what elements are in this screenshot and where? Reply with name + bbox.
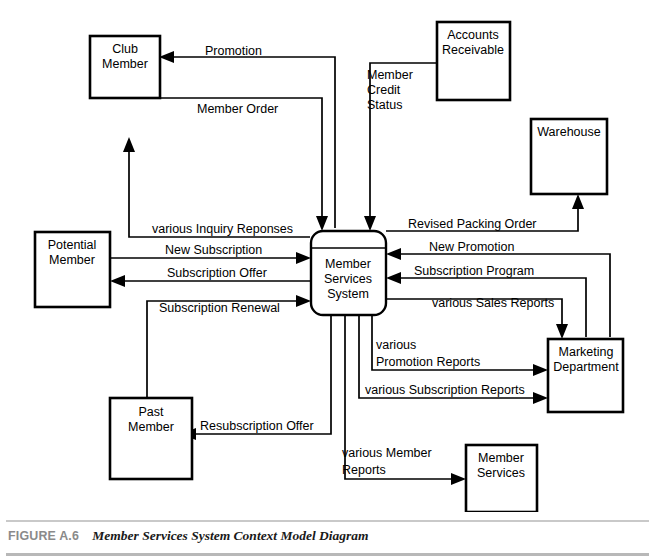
entity-member-services-label-line-2: Services [477, 466, 525, 480]
flow-label-subscription-offer: Subscription Offer [167, 266, 267, 280]
flow-various-promotion-reports-arrowhead [533, 364, 548, 376]
entity-member-services[interactable]: Member Services [466, 445, 537, 512]
flow-promotion [159, 51, 335, 228]
flow-label-various-subscription-reports: various Subscription Reports [365, 383, 525, 397]
flow-new-subscription-arrowhead [296, 252, 311, 264]
entity-club-member-label-line-2: Member [102, 57, 148, 71]
flow-label-various-inquiry-reponses: various Inquiry Reponses [152, 222, 293, 236]
entity-warehouse-label-line-1: Warehouse [537, 125, 601, 139]
flow-label-various-sales-reports: various Sales Reports [432, 296, 554, 310]
entity-past-member-label-line-1: Past [138, 405, 164, 419]
entity-marketing-department-label-line-1: Marketing [559, 345, 614, 359]
entity-potential-member-label-line-1: Potential [48, 238, 97, 252]
flow-member-credit-status-arrowhead [364, 216, 376, 231]
flow-label-subscription-program: Subscription Program [414, 264, 534, 278]
flow-label-member-credit-status-line-1: Member [367, 68, 413, 82]
flow-label-revised-packing-order: Revised Packing Order [408, 217, 537, 231]
flow-member-order-arrowhead [316, 216, 328, 231]
entity-marketing-department[interactable]: Marketing Department [548, 339, 623, 412]
flow-resubscription-offer-path [192, 315, 331, 434]
flow-label-subscription-renewal: Subscription Renewal [159, 301, 280, 315]
flow-new-promotion-arrowhead [386, 248, 401, 260]
flow-label-various-promotion-reports-line-2: Promotion Reports [376, 355, 480, 369]
figure-container: Club Member Accounts Receivable Warehous… [0, 0, 655, 558]
entity-potential-member-label-line-2: Member [49, 253, 95, 267]
entity-member-services-label-line-1: Member [478, 451, 524, 465]
entity-warehouse[interactable]: Warehouse [531, 119, 607, 194]
flow-various-member-reports-arrowhead [451, 473, 466, 485]
flow-label-various-member-reports-line-1: various Member [342, 446, 432, 460]
caption-text: FIGURE A.6Member Services System Context… [8, 526, 369, 544]
flow-subscription-program-arrowhead [386, 272, 401, 284]
entity-accounts-receivable[interactable]: Accounts Receivable [437, 22, 510, 100]
entity-past-member-label-line-2: Member [128, 420, 174, 434]
flow-label-new-subscription: New Subscription [165, 243, 262, 257]
flow-label-various-promotion-reports-line-1: various [376, 338, 416, 352]
flow-member-order-path [160, 98, 322, 220]
flow-label-member-credit-status-line-3: Status [367, 98, 402, 112]
flow-label-member-credit-status-line-2: Credit [367, 83, 401, 97]
flow-label-various-member-reports-line-2: Reports [342, 463, 386, 477]
figure-number: FIGURE A.6 [8, 528, 79, 543]
process-label-line-1: Member [325, 257, 371, 271]
flow-member-order [160, 98, 328, 231]
entity-past-member[interactable]: Past Member [110, 398, 192, 479]
process-label-line-3: System [327, 287, 369, 301]
caption-rule-top [6, 520, 649, 522]
context-diagram: Club Member Accounts Receivable Warehous… [0, 0, 655, 512]
entity-accounts-receivable-label-line-2: Receivable [442, 43, 504, 57]
flow-various-subscription-reports-arrowhead [533, 392, 548, 404]
flow-label-new-promotion: New Promotion [429, 240, 514, 254]
flow-promotion-path [170, 57, 335, 228]
figure-caption-bar: FIGURE A.6Member Services System Context… [0, 514, 655, 558]
flow-various-inquiry-reponses-arrowhead [123, 137, 135, 152]
flow-label-member-order: Member Order [197, 102, 278, 116]
entity-potential-member[interactable]: Potential Member [35, 232, 110, 307]
process-member-services-system[interactable]: Member Services System [311, 231, 386, 315]
flow-new-promotion [386, 248, 610, 337]
entity-club-member-label-line-1: Club [112, 42, 138, 56]
caption-rule-bottom [6, 553, 649, 556]
flow-subscription-renewal-arrowhead [296, 295, 311, 307]
flow-label-resubscription-offer: Resubscription Offer [200, 419, 314, 433]
figure-title: Member Services System Context Model Dia… [92, 528, 368, 543]
flow-revised-packing-order-arrowhead [572, 194, 584, 209]
process-label-line-2: Services [324, 272, 372, 286]
entity-club-member[interactable]: Club Member [90, 36, 160, 98]
flow-subscription-renewal-path [147, 301, 300, 398]
flow-label-promotion: Promotion [205, 44, 262, 58]
flow-subscription-offer-arrowhead [110, 275, 125, 287]
flow-various-sales-reports-arrowhead [556, 324, 568, 339]
entity-accounts-receivable-label-line-1: Accounts [447, 28, 498, 42]
entity-marketing-department-label-line-2: Department [553, 360, 619, 374]
